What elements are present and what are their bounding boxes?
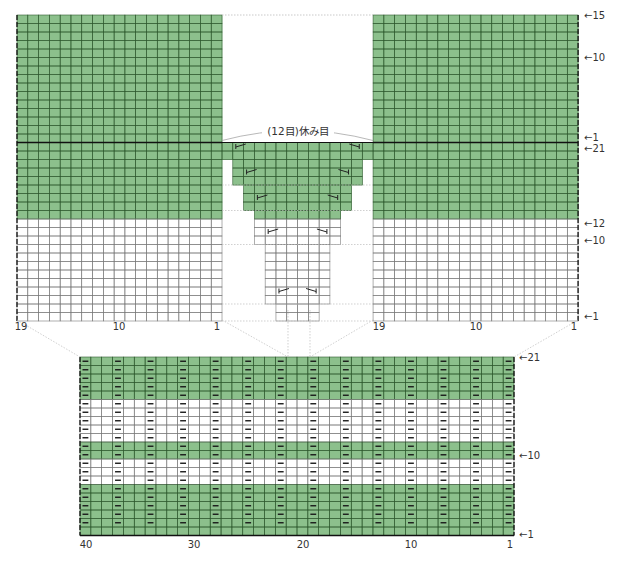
col-label-right-10: 10	[470, 322, 483, 332]
row-label-bottom-1: ←1	[519, 530, 534, 540]
row-label-top-1: ←1	[584, 133, 599, 143]
col-label-right-19: 19	[373, 322, 386, 332]
col-label-bottom-1: 1	[507, 540, 513, 550]
knitting-chart-diagram: (12目)休み目 ←15 ←10 ←1 ←21 ←12 ←10 ←1 19 10…	[0, 0, 618, 566]
held-stitches-note: (12目)休み目	[267, 123, 329, 138]
col-label-bottom-40: 40	[80, 540, 93, 550]
chart-canvas	[0, 0, 618, 566]
col-label-left-19: 19	[15, 322, 28, 332]
row-label-bottom-10: ←10	[519, 451, 540, 461]
row-label-bottom-21: ←21	[519, 353, 540, 363]
col-label-bottom-20: 20	[297, 540, 310, 550]
row-label-body-10: ←10	[584, 236, 605, 246]
col-label-bottom-30: 30	[188, 540, 201, 550]
row-label-top-10: ←10	[584, 53, 605, 63]
row-label-top-15: ←15	[584, 11, 605, 21]
col-label-left-10: 10	[113, 322, 126, 332]
col-label-left-1: 1	[214, 322, 220, 332]
row-label-body-21: ←21	[584, 144, 605, 154]
row-label-body-12: ←12	[584, 219, 605, 229]
col-label-bottom-10: 10	[405, 540, 418, 550]
col-label-right-1: 1	[571, 322, 577, 332]
row-label-body-1: ←1	[584, 312, 599, 322]
